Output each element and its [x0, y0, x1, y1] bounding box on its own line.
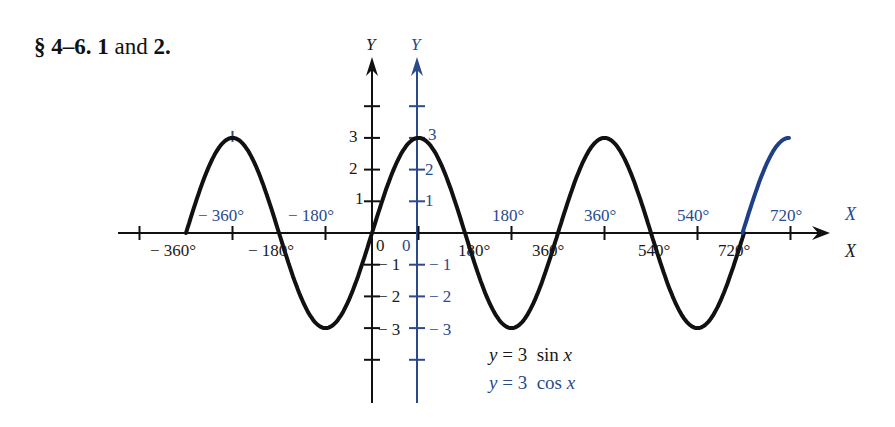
- blue-y-tick-label: 2: [425, 161, 434, 178]
- plot-area: [0, 0, 895, 427]
- black-y-tick-label: 3: [349, 128, 358, 145]
- black-y-axis-label: Y: [366, 36, 375, 53]
- legend-sin-eq: = 3 sin: [497, 344, 563, 365]
- blue-y-axis-label: Y: [411, 36, 420, 53]
- black-y-tick-label: 2: [349, 160, 358, 177]
- black-x-tick-label: 720°: [718, 242, 750, 259]
- blue-x-tick-label: 360°: [584, 207, 616, 224]
- blue-y-tick-label: − 1: [429, 256, 451, 273]
- legend-sin: y = 3 sin x: [489, 344, 572, 366]
- blue-y-tick-label: − 2: [429, 288, 451, 305]
- black-y-tick-label: 1: [355, 190, 364, 207]
- blue-y-tick-label: − 3: [429, 321, 451, 338]
- black-origin-label: 0: [376, 237, 385, 254]
- black-x-tick-label: − 360°: [150, 242, 196, 259]
- black-x-tick-label: − 180°: [248, 242, 294, 259]
- black-x-tick-label: 540°: [638, 242, 670, 259]
- blue-x-tick-label: 720°: [770, 207, 802, 224]
- blue-origin-label: 0: [402, 237, 411, 254]
- blue-x-axis-label: X: [845, 206, 856, 223]
- figure: § 4–6. 1 and 2. Y Y X X − 360° − 180° 18…: [0, 0, 895, 427]
- legend-cos: y = 3 cos x: [489, 372, 575, 394]
- blue-x-tick-label: − 180°: [288, 207, 334, 224]
- blue-y-tick-label: 1: [425, 192, 434, 209]
- black-x-tick-label: 180°: [458, 242, 490, 259]
- legend-cos-eq: = 3 cos: [497, 372, 566, 393]
- blue-x-tick-label: 180°: [492, 207, 524, 224]
- blue-x-tick-label: 540°: [677, 207, 709, 224]
- black-y-tick-label: − 1: [378, 256, 400, 273]
- black-y-tick-label: − 2: [378, 288, 400, 305]
- black-y-tick-label: − 3: [378, 321, 400, 338]
- blue-x-tick-label: − 360°: [198, 207, 244, 224]
- blue-y-tick-label: 3: [428, 126, 437, 143]
- black-x-axis-label: X: [845, 243, 856, 260]
- black-x-tick-label: 360°: [532, 242, 564, 259]
